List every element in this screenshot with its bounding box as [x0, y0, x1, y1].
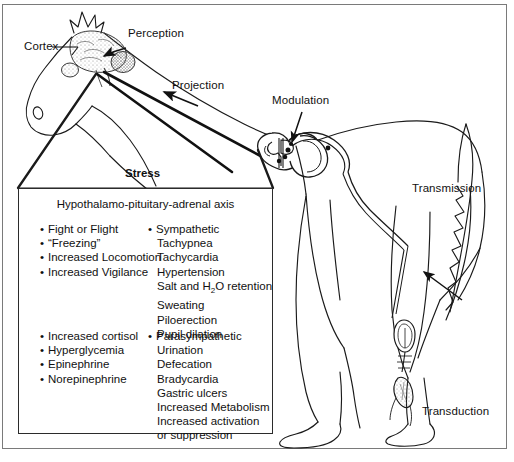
stress-item-label: Gastric ulcers	[157, 387, 227, 399]
label-modulation: Modulation	[272, 94, 329, 108]
label-transmission: Transmission	[412, 182, 481, 196]
stress-item-label: Defecation	[157, 358, 212, 370]
stress-item-label: Tachycardia	[157, 251, 218, 263]
stress-item: Hypertension	[148, 265, 272, 279]
bullet-icon: •	[40, 265, 48, 279]
stress-item: Increased activation	[148, 414, 270, 428]
stress-item-label: Epinephrine	[48, 358, 109, 370]
bullet-icon: •	[148, 329, 156, 343]
label-cortex: Cortex	[24, 40, 58, 54]
stress-item-label: Increased activation	[157, 415, 259, 427]
stress-item: •Increased Locomotion	[40, 250, 161, 264]
stress-item-label: Urination	[157, 344, 203, 356]
stress-box-subtitle: Hypothalamo-pituitary-adrenal axis	[18, 198, 273, 210]
stress-item-label: Sweating	[157, 299, 204, 311]
stress-item: •Parasympathetic	[148, 329, 270, 343]
stress-item: Sweating	[148, 298, 272, 312]
stress-item: Tachycardia	[148, 250, 272, 264]
label-projection: Projection	[172, 79, 224, 93]
stress-item: or suppression	[148, 428, 270, 442]
stress-list-sympathetic: •SympatheticTachypneaTachycardiaHyperten…	[148, 222, 272, 341]
stress-item-label: Hypertension	[157, 266, 225, 278]
stress-item-label: Bradycardia	[157, 373, 218, 385]
bullet-icon: •	[40, 343, 48, 357]
stress-item: •Increased Vigilance	[40, 265, 161, 279]
bullet-icon: •	[40, 236, 48, 250]
stress-item-label: Salt and H2O retention	[157, 280, 272, 292]
stress-item: •Sympathetic	[148, 222, 272, 236]
stress-list-endocrine: •Increased cortisol•Hyperglycemia•Epinep…	[40, 329, 138, 386]
stress-item: Urination	[148, 343, 270, 357]
stress-item-label: or suppression	[157, 429, 232, 441]
bullet-icon: •	[40, 222, 48, 236]
stress-item-label: Increased Locomotion	[48, 251, 161, 263]
stress-item: •“Freezing”	[40, 236, 161, 250]
stress-item: •Fight or Flight	[40, 222, 161, 236]
stress-item: Gastric ulcers	[148, 386, 270, 400]
stress-item: Increased Metabolism	[148, 400, 270, 414]
stress-item: •Increased cortisol	[40, 329, 138, 343]
stress-item-label: Tachypnea	[157, 237, 213, 249]
stress-item-label: Increased cortisol	[48, 330, 138, 342]
stress-box-title: Stress	[125, 167, 160, 179]
stress-item-label: Fight or Flight	[48, 223, 118, 235]
stress-item-label: Increased Vigilance	[48, 266, 148, 278]
stress-item-label: Piloerection	[157, 314, 217, 326]
bullet-icon: •	[148, 222, 156, 236]
stress-item: Bradycardia	[148, 372, 270, 386]
bullet-icon: •	[40, 372, 48, 386]
stress-item: •Hyperglycemia	[40, 343, 138, 357]
bullet-icon: •	[40, 250, 48, 264]
figure-canvas: Cortex Perception Projection Modulation …	[0, 0, 514, 462]
stress-item: Defecation	[148, 357, 270, 371]
stress-item-label: Increased Metabolism	[157, 401, 270, 413]
label-transduction: Transduction	[422, 405, 489, 419]
stress-list-behavioral: •Fight or Flight•“Freezing”•Increased Lo…	[40, 222, 161, 279]
bullet-icon: •	[40, 329, 48, 343]
bullet-icon: •	[40, 357, 48, 371]
stress-item-label: Norepinephrine	[48, 373, 127, 385]
stress-item-label: Hyperglycemia	[48, 344, 124, 356]
stress-item: Piloerection	[148, 313, 272, 327]
stress-item: Salt and H2O retention	[148, 279, 272, 299]
stress-item-label: Sympathetic	[156, 223, 219, 235]
stress-item-label: “Freezing”	[48, 237, 100, 249]
stress-item: •Norepinephrine	[40, 372, 138, 386]
label-perception: Perception	[128, 27, 184, 41]
stress-item-label: Parasympathetic	[156, 330, 242, 342]
stress-list-parasympathetic: •ParasympatheticUrinationDefecationBrady…	[148, 329, 270, 443]
stress-item: •Epinephrine	[40, 357, 138, 371]
stress-item: Tachypnea	[148, 236, 272, 250]
